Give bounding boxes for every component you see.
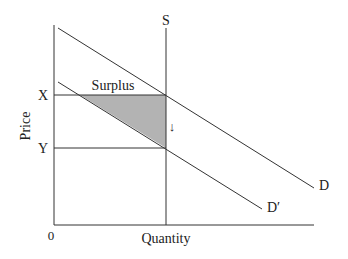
supply-demand-diagram: ↓ S D D′ X Y Surplus 0 Quantity Price [0, 0, 348, 259]
x-axis-label: Quantity [142, 231, 191, 246]
label-d-prime: D′ [267, 200, 280, 215]
label-origin: 0 [48, 228, 55, 243]
label-x: X [38, 88, 48, 103]
demand-curve-d [58, 28, 314, 188]
y-axis-label: Price [18, 112, 33, 141]
shift-arrow-icon: ↓ [169, 119, 176, 134]
label-s: S [162, 13, 170, 28]
label-d: D [319, 178, 329, 193]
label-surplus: Surplus [92, 78, 135, 93]
surplus-region [80, 95, 166, 148]
label-y: Y [38, 141, 48, 156]
